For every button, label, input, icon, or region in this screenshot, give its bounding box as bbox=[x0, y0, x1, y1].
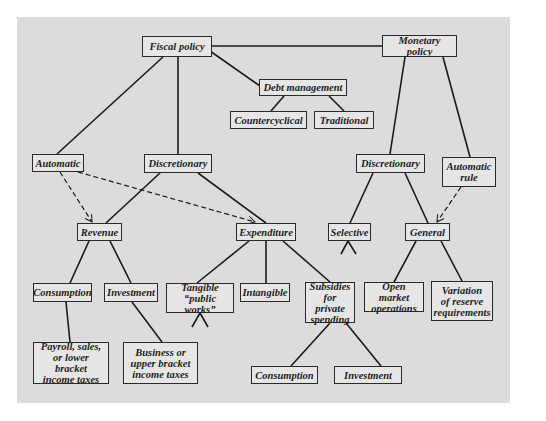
edge-fiscal-debt bbox=[210, 51, 260, 86]
stub-selective-right bbox=[348, 241, 356, 254]
node-revenue-consumption: Consumption bbox=[33, 283, 92, 302]
node-tangible-public-works: Tangible “public works” bbox=[166, 283, 234, 313]
node-monetary-discretionary: Discretionary bbox=[356, 154, 425, 173]
edge-general-openmarket bbox=[394, 241, 416, 282]
stub-tangible-right bbox=[200, 313, 208, 327]
node-revenue-investment: Investment bbox=[104, 283, 158, 302]
edge-debt-countercyclical bbox=[271, 96, 284, 111]
node-monetary-policy: Monetary policy bbox=[382, 35, 457, 57]
edge-automatic-revenue-dashed bbox=[60, 172, 92, 222]
node-traditional: Traditional bbox=[314, 111, 374, 129]
node-revenue: Revenue bbox=[77, 223, 122, 241]
edge-consumption-payroll bbox=[66, 302, 70, 342]
node-open-market-operations: Open market operations bbox=[364, 282, 424, 312]
edge-mdiscretionary-general bbox=[405, 173, 428, 223]
edge-monetary-automatic-rule bbox=[443, 57, 470, 157]
edge-fiscal-automatic bbox=[57, 57, 163, 154]
node-general: General bbox=[405, 223, 450, 241]
edge-monetary-discretionary bbox=[390, 57, 405, 154]
edge-subsidies-investment bbox=[346, 323, 381, 366]
node-automatic-rule: Automatic rule bbox=[442, 157, 496, 187]
edge-expenditure-subsidies bbox=[283, 241, 330, 282]
edge-mdiscretionary-selective bbox=[350, 173, 373, 223]
edge-general-reserve bbox=[441, 241, 462, 281]
edge-automaticrule-general-dashed bbox=[437, 187, 461, 222]
node-subsidy-investment: Investment bbox=[334, 366, 402, 384]
node-lower-bracket-taxes: Payroll, sales, or lower bracket income … bbox=[33, 342, 109, 384]
node-reserve-requirements: Variation of reserve requirements bbox=[431, 281, 493, 321]
edge-investment-business bbox=[132, 302, 162, 342]
edge-revenue-consumption bbox=[70, 241, 89, 283]
edge-discretionary-revenue bbox=[106, 173, 160, 223]
node-intangible: Intangible bbox=[240, 283, 290, 302]
edge-subsidies-consumption bbox=[291, 323, 330, 366]
stub-tangible-left bbox=[192, 313, 200, 327]
node-countercyclical: Countercyclical bbox=[230, 111, 307, 129]
node-fiscal-automatic: Automatic bbox=[32, 154, 84, 172]
node-upper-bracket-taxes: Business or upper bracket income taxes bbox=[123, 342, 198, 384]
node-subsidy-consumption: Consumption bbox=[251, 366, 318, 384]
node-fiscal-discretionary: Discretionary bbox=[144, 154, 212, 173]
stub-selective-left bbox=[341, 241, 348, 254]
edge-debt-traditional bbox=[329, 96, 344, 111]
edge-expenditure-tangible bbox=[197, 241, 249, 283]
edge-revenue-investment bbox=[110, 241, 131, 283]
node-selective: Selective bbox=[328, 223, 371, 241]
node-debt-management: Debt management bbox=[259, 79, 347, 96]
edge-automatic-expenditure-dashed bbox=[78, 172, 255, 222]
node-subsidies: Subsidies for private spending bbox=[305, 282, 355, 323]
node-expenditure: Expenditure bbox=[236, 223, 296, 241]
node-fiscal-policy: Fiscal policy bbox=[142, 36, 212, 57]
